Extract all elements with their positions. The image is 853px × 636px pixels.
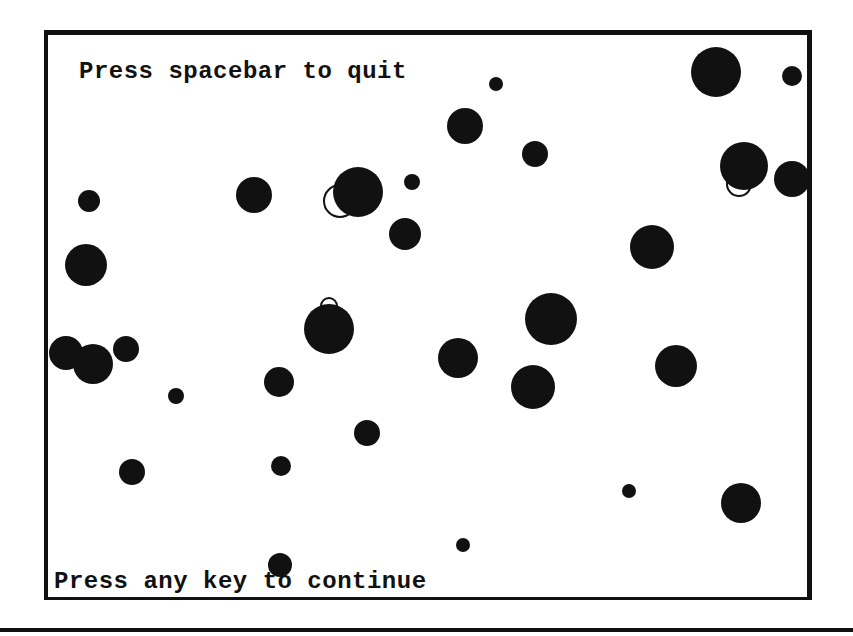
ball bbox=[447, 108, 483, 144]
quit-prompt: Press spacebar to quit bbox=[79, 60, 407, 84]
ball bbox=[168, 388, 184, 404]
ball bbox=[522, 141, 548, 167]
ball bbox=[438, 338, 478, 378]
ball bbox=[73, 344, 113, 384]
ball bbox=[721, 483, 761, 523]
hollow-ball bbox=[726, 171, 752, 197]
ball bbox=[511, 365, 555, 409]
ball bbox=[774, 161, 810, 197]
ball bbox=[782, 66, 802, 86]
ball bbox=[622, 484, 636, 498]
game-frame: Press spacebar to quit Press any key to … bbox=[44, 30, 812, 600]
ball bbox=[404, 174, 420, 190]
ball bbox=[65, 244, 107, 286]
ball bbox=[655, 345, 697, 387]
hollow-ball bbox=[320, 297, 338, 315]
ball bbox=[691, 47, 741, 97]
ball bbox=[525, 293, 577, 345]
ball bbox=[389, 218, 421, 250]
ball bbox=[119, 459, 145, 485]
ball bbox=[264, 367, 294, 397]
ball bbox=[236, 177, 272, 213]
ball bbox=[271, 456, 291, 476]
bottom-divider bbox=[0, 628, 853, 632]
ball bbox=[630, 225, 674, 269]
ball bbox=[489, 77, 503, 91]
ball bbox=[456, 538, 470, 552]
ball bbox=[113, 336, 139, 362]
ball bbox=[268, 553, 292, 577]
ball bbox=[78, 190, 100, 212]
ball bbox=[354, 420, 380, 446]
hollow-ball bbox=[323, 184, 357, 218]
continue-prompt: Press any key to continue bbox=[54, 570, 427, 594]
